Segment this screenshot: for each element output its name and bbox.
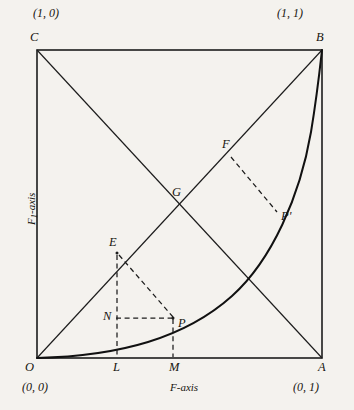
point-label-M: M	[169, 361, 179, 374]
vertex-label-A: A	[318, 361, 326, 374]
x-axis-label: F-axis	[170, 382, 198, 393]
point-label-F: F	[222, 138, 230, 151]
y-axis-label-main: F	[25, 218, 37, 225]
vertex-label-C: C	[30, 31, 38, 44]
point-label-L: L	[113, 361, 120, 374]
corner-coord-bottom-right: (0, 1)	[293, 381, 319, 393]
point-marker-P	[172, 317, 175, 320]
point-label-N: N	[103, 310, 111, 323]
corner-coord-top-right: (1, 1)	[277, 7, 303, 19]
vertex-label-B: B	[316, 31, 324, 44]
point-label-G: G	[172, 186, 181, 199]
y-axis-label-subscript: 1	[29, 214, 39, 218]
y-axis-label: F1-axis	[26, 193, 38, 225]
geometry-figure	[0, 0, 354, 410]
point-marker-E	[116, 252, 119, 255]
corner-coord-top-left: (1, 0)	[33, 7, 59, 19]
dashed-F-to-P-prime	[231, 157, 277, 212]
point-label-E: E	[109, 236, 117, 249]
vertex-label-O: O	[25, 361, 34, 374]
corner-coord-bottom-left: (0, 0)	[22, 381, 48, 393]
figure-canvas: (1, 0) (1, 1) (0, 0) (0, 1) C B O A E F …	[0, 0, 354, 410]
point-label-P-prime: P'	[281, 210, 291, 223]
point-label-P: P	[178, 317, 186, 330]
dashed-E-to-P	[119, 255, 173, 317]
y-axis-label-tail: -axis	[25, 193, 37, 214]
